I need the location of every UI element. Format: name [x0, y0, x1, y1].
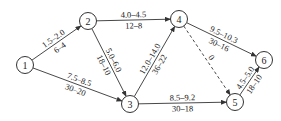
- edge-label-top: 0: [206, 53, 217, 62]
- edge-5-6: 4.5–5.018–10: [234, 65, 265, 96]
- node-label: 1: [23, 60, 28, 71]
- edge-label-top: 4.0–4.5: [121, 9, 147, 20]
- node-label: 6: [262, 55, 267, 66]
- edge-label-bottom: 12–8: [125, 20, 142, 30]
- edge-4-6: 9.5–10.330–16: [187, 23, 257, 57]
- edge-1-2: 1.5–2.06–4: [32, 26, 81, 60]
- edge-2-4: 4.0–4.512–8: [96, 9, 170, 30]
- node-2: 2: [80, 13, 97, 30]
- node-label: 3: [128, 99, 133, 110]
- node-1: 1: [17, 57, 34, 74]
- edge-3-4: 12.0–14.036–22: [134, 26, 175, 96]
- node-label: 2: [86, 16, 91, 27]
- node-label: 4: [177, 14, 182, 25]
- node-4: 4: [171, 11, 188, 28]
- node-3: 3: [122, 96, 139, 113]
- edge-label-top: 8.5–9.2: [170, 92, 196, 102]
- edge-3-5: 8.5–9.230–18: [138, 92, 226, 113]
- network-diagram: 1.5–2.06–47.5–8.530–204.0–4.512–85.0–6.0…: [0, 0, 281, 121]
- edge-label-bottom: 30–18: [172, 103, 193, 113]
- node-6: 6: [256, 52, 273, 69]
- node-label: 5: [233, 97, 238, 108]
- edge-2-3: 5.0–6.018–10: [92, 29, 126, 97]
- node-5: 5: [227, 94, 244, 111]
